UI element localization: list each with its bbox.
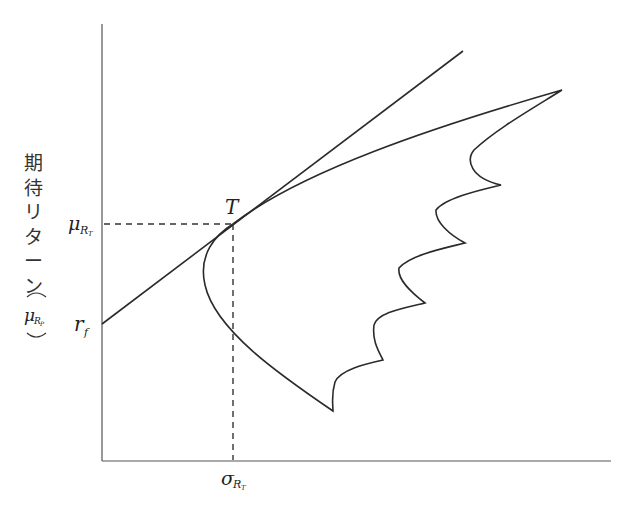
svg-text:R: R — [79, 224, 88, 237]
svg-text:T: T — [241, 484, 247, 492]
y-axis-symbol: μ R P — [24, 293, 46, 337]
svg-text:待: 待 — [24, 177, 43, 199]
sigma-T-label: σ R T — [221, 467, 247, 492]
svg-text:μ: μ — [68, 212, 80, 234]
svg-text:f: f — [83, 326, 90, 339]
diagram-canvas: T μ R T r f σ R T 期 待 リ タ ー ン μ R P — [0, 0, 639, 514]
svg-text:ー: ー — [24, 250, 43, 272]
svg-text:T: T — [88, 230, 94, 238]
capital-market-line — [102, 51, 463, 324]
svg-text:リ: リ — [24, 201, 43, 223]
svg-text:タ: タ — [24, 226, 43, 248]
tangency-point-label: T — [225, 195, 240, 219]
svg-text:R: R — [232, 478, 241, 491]
mu-T-label: μ R T — [68, 212, 94, 238]
svg-text:期: 期 — [24, 152, 43, 174]
feasible-set-boundary — [203, 90, 562, 411]
rf-label: r f — [74, 312, 90, 339]
svg-text:P: P — [39, 320, 45, 327]
paren-close-arc — [27, 333, 46, 337]
y-axis-label: 期 待 リ タ ー ン — [24, 152, 43, 297]
